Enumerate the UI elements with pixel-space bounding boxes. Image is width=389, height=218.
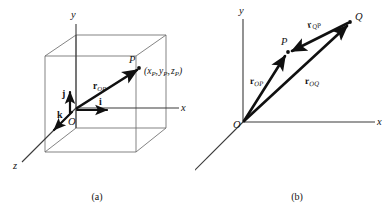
panel-b-vector-r-OP-label: rOP [250,76,264,88]
vector-r-OQ-line [244,26,347,121]
b-rqp-sub: QP [311,21,321,30]
svg-text:rOQ: rOQ [305,76,320,88]
panel-b-point-P-label: P [280,36,288,47]
panel-b: y x z O P Q rOP rOQ rQP (b) [195,0,389,218]
panel-b-caption: (b) [291,191,303,203]
point-Q-dot [348,20,352,24]
svg-text:rOP: rOP [93,81,106,92]
panel-a-coordinate-label: (xP,yP,zP) [144,66,182,77]
panel-b-y-axis-label: y [238,5,244,16]
vector-diagram-figure: y x z O P (xP,yP,zP) j i k rOP (a) [0,0,389,218]
svg-text:rQP: rQP [306,17,321,31]
coord-sep1: , [156,66,158,76]
panel-a-vector-r-OP-label: rOP [93,81,106,92]
point-P-dot [286,50,290,54]
panel-a-unit-vector-i-label: i [99,96,102,107]
panel-b-x-axis-label: x [376,116,382,127]
panel-a-caption: (a) [91,191,102,203]
coord-close: ) [178,66,182,77]
panel-b-origin-label: O [233,119,241,130]
panel-a-origin-label: O [68,116,76,127]
panel-a-unit-vector-j-label: j [61,88,65,99]
panel-a-point-P-label: P [128,54,136,65]
svg-text:(xP,yP,zP): (xP,yP,zP) [144,66,182,77]
panel-b-vector-r-OQ-label: rOQ [305,76,320,88]
panel-a-unit-vector-k-label: k [57,109,63,120]
panel-a-z-axis-label: z [12,160,17,171]
rop-sub: OP [97,85,106,92]
b-roq-sub: OQ [309,80,319,87]
panel-b-vector-r-QP-label: rQP [306,17,321,31]
point-P-dot [137,66,141,70]
panel-b-point-Q-label: Q [355,11,363,22]
b-rop-sub: OP [254,80,263,87]
panel-a-y-axis-label: y [70,9,76,20]
coord-sep2: , [167,66,169,76]
svg-text:rOP: rOP [250,76,264,88]
vector-r-OP-line [77,70,137,108]
panel-a-x-axis-label: x [180,102,186,113]
panel-a: y x z O P (xP,yP,zP) j i k rOP (a) [0,0,195,218]
